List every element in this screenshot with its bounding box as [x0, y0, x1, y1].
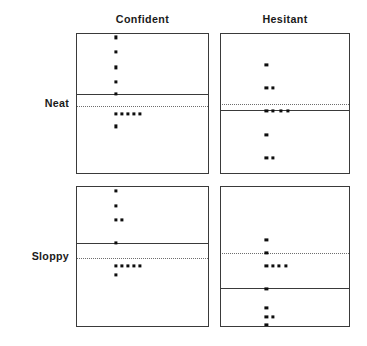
data-point [265, 110, 268, 113]
data-point [265, 251, 268, 254]
data-point [271, 315, 274, 318]
data-point [115, 218, 118, 221]
data-point [265, 63, 268, 66]
data-point [271, 265, 274, 268]
data-point [279, 110, 282, 113]
reference-line-solid [76, 94, 209, 95]
data-point [115, 265, 118, 268]
data-point [115, 92, 118, 95]
data-point [115, 274, 118, 277]
data-point [121, 112, 124, 115]
panel-sloppy-hesitant [220, 186, 350, 327]
data-point [265, 133, 268, 136]
data-point [271, 86, 274, 89]
data-point [265, 315, 268, 318]
data-point [115, 204, 118, 207]
data-point [265, 265, 268, 268]
data-point [265, 238, 268, 241]
panel-sloppy-confident [76, 186, 209, 327]
column-header-hesitant: Hesitant [225, 13, 346, 26]
data-point [265, 288, 268, 291]
column-header-confident: Confident [81, 13, 205, 26]
data-point [138, 112, 141, 115]
reference-line-solid [220, 110, 350, 111]
data-point [115, 80, 118, 83]
data-point [271, 110, 274, 113]
data-point [115, 36, 118, 39]
data-point [115, 66, 118, 69]
reference-line-solid [220, 288, 350, 289]
data-point [121, 218, 124, 221]
data-point [138, 265, 141, 268]
reference-line-dotted [220, 253, 350, 254]
data-point [126, 112, 129, 115]
data-point [265, 86, 268, 89]
data-point [278, 265, 281, 268]
data-point [265, 306, 268, 309]
reference-line-dotted [76, 106, 209, 107]
data-point [115, 125, 118, 128]
data-point [132, 112, 135, 115]
data-point [271, 156, 274, 159]
data-point [287, 110, 290, 113]
data-point [121, 265, 124, 268]
data-point [115, 50, 118, 53]
reference-line-dotted [76, 258, 209, 259]
data-point [115, 241, 118, 244]
reference-line-dotted [220, 104, 350, 105]
data-point [115, 112, 118, 115]
data-point [265, 156, 268, 159]
panel-neat-confident [76, 33, 209, 174]
reference-line-solid [76, 243, 209, 244]
panel-neat-hesitant [220, 33, 350, 174]
data-point [126, 265, 129, 268]
data-point [115, 190, 118, 193]
figure-root: Confident Hesitant Neat Sloppy [0, 0, 367, 346]
data-point [132, 265, 135, 268]
data-point [265, 323, 268, 326]
row-label-sloppy: Sloppy [5, 250, 69, 263]
row-label-neat: Neat [5, 97, 69, 110]
data-point [284, 265, 287, 268]
